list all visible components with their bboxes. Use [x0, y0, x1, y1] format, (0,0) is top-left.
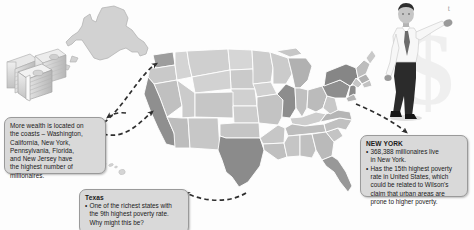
callout-line: claim that urban areas are: [366, 190, 462, 198]
us-choropleth-map: [140, 44, 376, 196]
callout-line: Why might this be?: [85, 219, 183, 227]
callout-line: the 9th highest poverty rate.: [85, 210, 183, 218]
corner-mark: t: [448, 4, 450, 13]
callout-line: in New York.: [366, 156, 462, 164]
callout-line: Pennsylvania, Florida,: [10, 147, 100, 155]
callout-bullet: 368,388 millionaires live: [366, 148, 462, 156]
new-york-callout[interactable]: NEW YORK 368,388 millionaires live in Ne…: [360, 135, 468, 197]
callout-line: More wealth is located on: [10, 122, 100, 130]
callout-line: could be related to Wilson's: [366, 181, 462, 189]
callout-bullet: Has the 15th highest poverty: [366, 165, 462, 173]
callout-line: prone to higher poverty.: [366, 198, 462, 206]
callout-line: the coasts – Washington,: [10, 130, 100, 138]
callout-line: the highest number of: [10, 163, 100, 171]
texas-callout[interactable]: Texas One of the richest states with the…: [79, 189, 189, 230]
callout-line: rate in United States, which: [366, 173, 462, 181]
callout-title: Texas: [85, 194, 183, 203]
money-stack-illustration: [2, 44, 70, 104]
callout-line: millionaires.: [10, 172, 100, 180]
callout-title: NEW YORK: [366, 140, 462, 149]
callout-line: California, New York,: [10, 139, 100, 147]
businessman-illustration: $: [372, 0, 468, 122]
callout-line: and New Jersey have: [10, 155, 100, 163]
wealth-coasts-callout[interactable]: More wealth is located on the coasts – W…: [4, 117, 106, 174]
slide-canvas: $: [0, 0, 474, 230]
callout-bullet: One of the richest states with: [85, 202, 183, 210]
